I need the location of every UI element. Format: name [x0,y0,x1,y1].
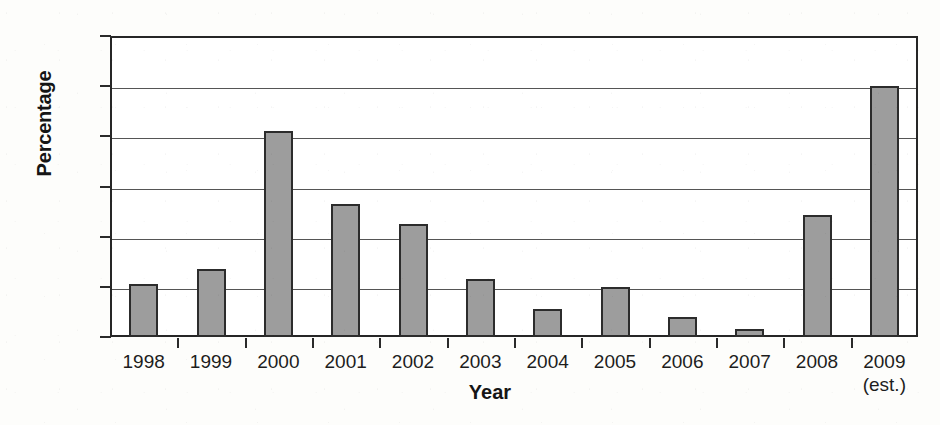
x-tick-mark [581,338,583,348]
y-axis-title: Percentage [33,44,56,204]
bar [601,287,630,337]
bar [331,204,360,337]
bar [668,317,697,337]
bar [129,284,158,337]
bar [533,309,562,337]
bar [264,131,293,337]
bar-chart: Percentage 0%2%4%6%8%10%12% 199819992000… [0,0,940,425]
x-tick-label-note: (est.) [844,373,924,396]
x-tick-label-year: 2003 [459,351,501,372]
x-tick-mark [447,338,449,348]
x-tick-mark [379,338,381,348]
x-tick-mark [851,338,853,348]
x-tick-mark [245,338,247,348]
x-tick-mark [783,338,785,348]
bars-series [110,36,918,337]
bar [399,224,428,337]
x-tick-mark [177,338,179,348]
x-axis-title: Year [410,381,570,404]
x-tick-label-year: 2006 [661,351,703,372]
x-tick-label-year: 2001 [325,351,367,372]
x-tick-label-year: 2008 [796,351,838,372]
x-tick-mark [312,338,314,348]
bar [197,269,226,337]
x-tick-mark [716,338,718,348]
x-tick-label-year: 1998 [123,351,165,372]
x-tick-label-year: 2007 [729,351,771,372]
bar [466,279,495,337]
x-tick-label-year: 2009 [863,351,905,372]
bar [870,86,899,337]
x-tick-label-year: 2005 [594,351,636,372]
x-tick-mark [514,338,516,348]
x-tick-label: 2009(est.) [844,350,924,396]
bar [735,329,764,337]
x-tick-label-year: 2000 [257,351,299,372]
x-tick-label-year: 2002 [392,351,434,372]
x-tick-mark [649,338,651,348]
bar [803,215,832,337]
x-tick-label-year: 2004 [527,351,569,372]
x-tick-label-year: 1999 [190,351,232,372]
